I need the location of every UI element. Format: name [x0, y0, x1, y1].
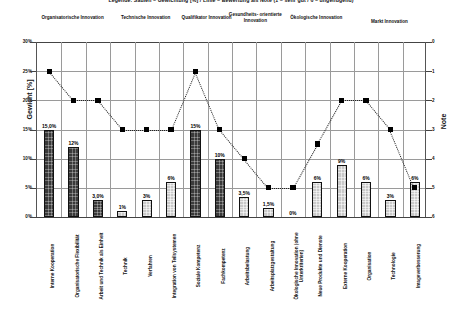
- bar-value-label: 3,5%: [232, 190, 256, 196]
- line-marker: [47, 69, 52, 74]
- plot-area: 15,0%12%3,0%1%3%6%15%10%3,5%1,5%0%6%9%6%…: [36, 42, 426, 217]
- y-axis-right-tick-label: 3: [432, 127, 448, 132]
- bar: [337, 165, 347, 218]
- y-axis-right-title: Note: [440, 97, 447, 147]
- y-axis-right-tick-label: 6: [432, 214, 448, 219]
- bar-value-label: 3%: [378, 193, 402, 199]
- y-axis-right-tick-label: 5: [432, 185, 448, 190]
- x-axis-category-label: Organisation: [367, 218, 372, 314]
- gridline-vertical: [403, 42, 404, 217]
- bar: [312, 182, 322, 217]
- gridline-horizontal: [37, 159, 425, 160]
- bar-value-label: 10%: [208, 152, 232, 158]
- gridline-vertical: [86, 42, 87, 217]
- chart-root: Legende: Säulen = Gewichtung [%] / Linie…: [0, 0, 462, 318]
- x-axis-category-label: Verfahren: [148, 218, 153, 314]
- bar-value-label: 12%: [61, 140, 85, 146]
- gridline-vertical: [281, 42, 282, 217]
- group-header-label: Gesundheits- orientierte Innovation: [221, 12, 289, 23]
- line-marker: [363, 98, 368, 103]
- line-segment: [122, 130, 146, 131]
- x-axis-category-label: Technik: [123, 218, 128, 314]
- gridline-vertical: [305, 42, 306, 217]
- bar: [239, 197, 249, 217]
- x-axis-category-label: Interne Kooperation: [50, 218, 55, 314]
- y-axis-right-tick-label: 4: [432, 156, 448, 161]
- x-axis-category-label: Arbeit und Technik als Einheit: [99, 218, 104, 314]
- line-marker: [168, 127, 173, 132]
- y-axis-right-tick-label: 2: [432, 98, 448, 103]
- bar: [93, 200, 103, 218]
- line-marker: [144, 127, 149, 132]
- x-axis-category-label: Arbeitsbelastung: [245, 218, 250, 314]
- gridline-vertical: [208, 42, 209, 217]
- line-segment: [147, 130, 171, 131]
- gridline-vertical: [330, 42, 331, 217]
- bar: [263, 208, 273, 217]
- bar: [44, 130, 54, 218]
- x-axis-category-label: Soziale Kompetenz: [196, 218, 201, 314]
- line-marker: [315, 141, 320, 146]
- line-marker: [242, 156, 247, 161]
- gridline-horizontal: [37, 42, 425, 43]
- gridline-horizontal: [37, 71, 425, 72]
- line-marker: [193, 69, 198, 74]
- line-marker: [412, 185, 417, 190]
- y-axis-left-tick-label: 15%: [6, 127, 32, 132]
- group-header-label: Organisatorische Innovation: [39, 15, 107, 21]
- y-axis-left-tick-label: 5%: [6, 185, 32, 190]
- y-axis-right-tick-label: 0: [432, 39, 448, 44]
- bar-value-label: 15,0%: [37, 123, 61, 129]
- y-axis-right-tickmark: [426, 71, 432, 72]
- bar: [190, 130, 200, 218]
- y-axis-left-tick-label: 20%: [6, 98, 32, 103]
- gridline-vertical: [183, 42, 184, 217]
- group-header-label: Ökologische Innovation: [282, 15, 350, 21]
- y-axis-right-tickmark: [426, 159, 432, 160]
- x-axis-category-label: Arbeitsplatzgestaltung: [270, 218, 275, 314]
- gridline-vertical: [378, 42, 379, 217]
- x-axis-category-label: Organisatorische Flexibilität: [75, 218, 80, 314]
- y-axis-right-tickmark: [426, 42, 432, 43]
- x-axis-category-label: Technologie: [391, 218, 396, 314]
- gridline-vertical: [256, 42, 257, 217]
- y-axis-right-tickmark: [426, 217, 432, 218]
- line-marker: [290, 185, 295, 190]
- x-axis-category-label: Ökologische Innovation (ohne Unterkriter…: [294, 218, 305, 314]
- bar-value-label: 6%: [403, 175, 427, 181]
- y-axis-right-tick-label: 1: [432, 69, 448, 74]
- bar: [361, 182, 371, 217]
- y-axis-right-tickmark: [426, 130, 432, 131]
- x-axis-category-label: Externe Kooperation: [343, 218, 348, 314]
- bar-value-label: 1,5%: [256, 201, 280, 207]
- line-marker: [266, 185, 271, 190]
- y-axis-left-tick-label: 25%: [6, 69, 32, 74]
- bar-value-label: 1%: [110, 204, 134, 210]
- bar: [385, 200, 395, 218]
- bar: [215, 159, 225, 217]
- x-axis-category-label: Integration von Teilsystemen: [172, 218, 177, 314]
- bar-value-label: 9%: [330, 158, 354, 164]
- gridline-horizontal: [37, 130, 425, 131]
- line-marker: [120, 127, 125, 132]
- bar-value-label: 3,0%: [86, 193, 110, 199]
- line-segment: [269, 188, 293, 189]
- line-segment: [74, 100, 98, 101]
- bar-value-label: 6%: [159, 175, 183, 181]
- gridline-vertical: [354, 42, 355, 217]
- y-axis-left-tick-label: 30%: [6, 39, 32, 44]
- line-marker: [95, 98, 100, 103]
- x-axis-category-label: Imageverbesserung: [416, 218, 421, 314]
- bar-value-label: 0%: [281, 210, 305, 216]
- bar-value-label: 6%: [305, 175, 329, 181]
- line-marker: [339, 98, 344, 103]
- x-axis-category-label: Neue Produkte und Dienste: [318, 218, 323, 314]
- line-segment: [342, 100, 366, 101]
- x-axis-category-label: Fachkompetenz: [221, 218, 226, 314]
- y-axis-right-tickmark: [426, 100, 432, 101]
- gridline-vertical: [110, 42, 111, 217]
- bar-value-label: 3%: [135, 193, 159, 199]
- bar-value-label: 6%: [354, 175, 378, 181]
- bar: [68, 147, 78, 217]
- y-axis-left-tick-label: 0%: [6, 214, 32, 219]
